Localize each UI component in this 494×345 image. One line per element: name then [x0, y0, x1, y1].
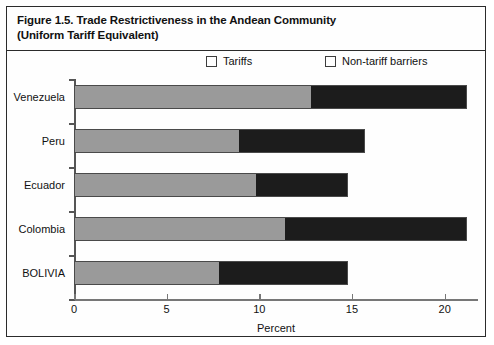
x-axis-tick-10 [259, 294, 261, 300]
legend-item-tariffs: Tariffs [206, 55, 252, 67]
y-axis-tick-0 [69, 79, 75, 81]
y-axis-tick-1 [69, 123, 75, 125]
bar-row-bolivia [74, 261, 348, 285]
x-axis-title: Percent [74, 322, 478, 334]
legend-swatch-non-tariff-barriers [325, 56, 336, 67]
bar-segment-colombia-tariffs [74, 217, 285, 241]
y-axis-tick-3 [69, 211, 75, 213]
x-axis-tick-label-15: 15 [346, 303, 358, 315]
x-axis-tick-0 [74, 294, 76, 300]
chart-legend: Tariffs Non-tariff barriers [7, 53, 485, 75]
y-axis-tick-2 [69, 167, 75, 169]
y-axis-tick-4 [69, 255, 75, 257]
bar-segment-colombia-non-tariff-barriers [285, 217, 467, 241]
bar-segment-venezuela-tariffs [74, 85, 311, 109]
legend-swatch-tariffs [206, 56, 217, 67]
bar-segment-ecuador-tariffs [74, 173, 256, 197]
x-axis-tick-label-5: 5 [164, 303, 170, 315]
x-axis-line [74, 299, 478, 301]
bar-segment-bolivia-non-tariff-barriers [219, 261, 349, 285]
figure-title-line-1: Figure 1.5. Trade Restrictiveness in the… [17, 13, 475, 28]
figure-title-block: Figure 1.5. Trade Restrictiveness in the… [7, 7, 485, 51]
figure-frame: Figure 1.5. Trade Restrictiveness in the… [6, 6, 486, 337]
bar-row-peru [74, 129, 365, 153]
bar-segment-peru-tariffs [74, 129, 239, 153]
x-axis-tick-5 [167, 294, 169, 300]
bar-row-colombia [74, 217, 467, 241]
bar-segment-venezuela-non-tariff-barriers [311, 85, 467, 109]
bar-row-ecuador [74, 173, 348, 197]
bar-series-group [7, 75, 485, 299]
bar-row-venezuela [74, 85, 467, 109]
legend-label-non-tariff-barriers: Non-tariff barriers [342, 55, 427, 67]
bar-segment-ecuador-non-tariff-barriers [256, 173, 349, 197]
x-axis-tick-label-0: 0 [71, 303, 77, 315]
legend-label-tariffs: Tariffs [223, 55, 252, 67]
x-axis-tick-label-10: 10 [253, 303, 265, 315]
legend-item-non-tariff-barriers: Non-tariff barriers [325, 55, 427, 67]
figure-title-line-2: (Uniform Tariff Equivalent) [17, 28, 475, 43]
x-axis-tick-15 [352, 294, 354, 300]
x-axis-tick-20 [445, 294, 447, 300]
x-axis-tick-label-20: 20 [439, 303, 451, 315]
plot-area: VenezuelaPeruEcuadorColombiaBOLIVIA Perc… [7, 75, 485, 336]
bar-segment-peru-non-tariff-barriers [239, 129, 365, 153]
bar-segment-bolivia-tariffs [74, 261, 219, 285]
